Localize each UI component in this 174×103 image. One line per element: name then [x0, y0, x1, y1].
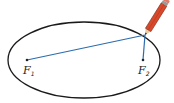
focus-1-label: F1 — [22, 64, 34, 77]
ellipse — [8, 22, 160, 98]
focus-2-label: F2 — [137, 64, 150, 77]
string-segment-f2 — [143, 35, 145, 60]
focus-1-point — [26, 59, 29, 62]
string-segment-f1 — [27, 35, 145, 60]
ellipse-diagram: F1 F2 — [0, 0, 174, 103]
pencil-icon — [142, 0, 170, 37]
focus-2-point — [142, 59, 145, 62]
